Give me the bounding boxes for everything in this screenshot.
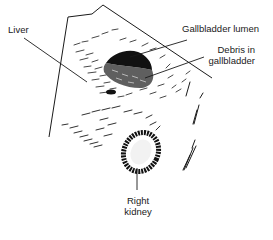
label-kidney-line2: kidney	[118, 206, 158, 217]
label-liver: Liver	[8, 24, 29, 35]
label-gallbladder-lumen: Gallbladder lumen	[182, 23, 259, 34]
leader-liver	[24, 38, 87, 82]
label-debris-line2: gallbladder	[200, 55, 255, 66]
leader-debris	[145, 57, 204, 78]
label-debris-line1: Debris in	[205, 44, 255, 55]
label-kidney-line1: Right	[118, 195, 158, 206]
right-kidney	[117, 127, 165, 178]
right-wall-streaks	[183, 82, 203, 170]
